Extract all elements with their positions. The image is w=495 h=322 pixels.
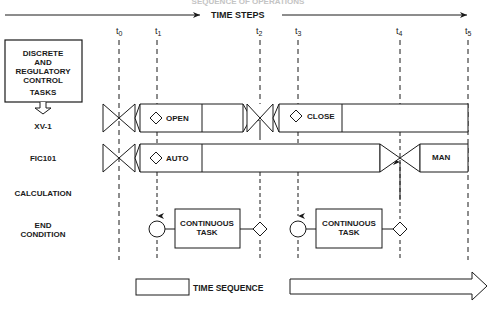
task-1-line2: TASK [196,228,217,237]
xv1-close-bar [273,104,468,132]
xv1-state-close: CLOSE [307,112,335,121]
row-label-xv1: XV-1 [34,122,52,131]
row-label-condition: CONDITION [21,230,66,239]
svg-text:DISCRETE: DISCRETE [23,49,64,58]
time-sequence-legend: TIME SEQUENCE [136,272,487,300]
svg-text:AND: AND [34,58,52,67]
fic101-timeline [103,144,468,172]
svg-text:t5: t5 [465,26,472,37]
end-diamond-icon [253,222,267,236]
time-steps-axis: TIME STEPS [5,10,467,20]
xv1-timeline [103,104,468,132]
control-tasks-box: DISCRETE AND REGULATORY CONTROL TASKS [5,40,82,114]
time-steps-label: TIME STEPS [211,10,265,20]
time-marker-t5: t5 [465,26,472,260]
task-2-line1: CONTINUOUS [322,219,376,228]
svg-text:TASKS: TASKS [30,88,57,97]
fic101-state-man: MAN [432,153,450,162]
svg-text:CONTROL: CONTROL [23,76,63,85]
svg-text:t2: t2 [256,26,263,37]
time-sequence-arrow-icon [290,272,487,300]
svg-text:t0: t0 [116,26,123,37]
time-marker-t0: t0 [116,26,123,260]
fic101-state-auto: AUTO [166,154,189,163]
faint-title: SEQUENCE OF OPERATIONS [192,0,305,6]
row-label-end: END [35,221,52,230]
row-label-calculation: CALCULATION [14,189,71,198]
transition-bowtie [103,104,135,132]
end-diamond-icon [393,222,407,236]
svg-text:t1: t1 [155,26,162,37]
task-2-line2: TASK [338,228,359,237]
start-circle-icon [149,221,165,237]
xv1-state-open: OPEN [166,114,189,123]
svg-text:REGULATORY: REGULATORY [16,67,72,76]
svg-text:t3: t3 [295,26,302,37]
row-label-fic101: FIC101 [30,154,57,163]
sequence-diagram: SEQUENCE OF OPERATIONS TIME STEPS t0 t1 … [0,0,495,322]
legend-swatch [136,279,189,295]
start-circle-icon [290,221,306,237]
down-arrow-icon [35,102,51,114]
legend-label: TIME SEQUENCE [193,283,264,293]
task-1-line1: CONTINUOUS [180,219,234,228]
svg-text:t4: t4 [396,26,403,37]
